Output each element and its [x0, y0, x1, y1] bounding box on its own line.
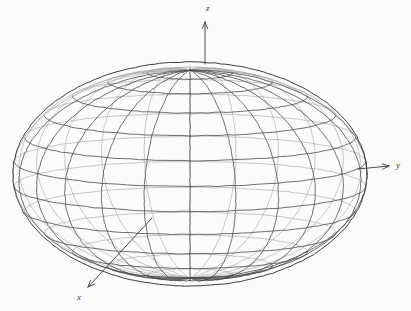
figure-root: z y x [0, 0, 411, 311]
axis-label-z: z [205, 3, 210, 13]
ellipsoid-figure-svg: z y x [0, 0, 411, 311]
axis-label-y: y [395, 160, 400, 170]
figure-background [0, 0, 411, 311]
axis-label-x: x [76, 292, 81, 302]
